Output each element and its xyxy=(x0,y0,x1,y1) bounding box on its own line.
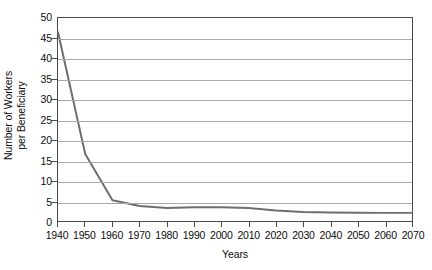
x-axis-tick-mark xyxy=(412,222,413,227)
gridline xyxy=(58,39,412,40)
x-axis-tick-mark xyxy=(249,222,250,227)
y-axis-tick-label: 15 xyxy=(26,155,52,166)
y-axis-tick-label: 20 xyxy=(26,135,52,146)
y-axis-tick-label: 40 xyxy=(26,53,52,64)
x-axis-tick-mark xyxy=(358,222,359,227)
x-axis-tick-mark xyxy=(221,222,222,227)
x-axis-tick-mark xyxy=(139,222,140,227)
y-axis-tick-labels: 05101520253035404550 xyxy=(26,17,52,222)
y-axis-tick-label: 5 xyxy=(26,196,52,207)
x-axis-tick-mark xyxy=(84,222,85,227)
gridline xyxy=(58,59,412,60)
x-axis-tick-mark xyxy=(167,222,168,227)
x-axis-tick-mark xyxy=(386,222,387,227)
y-axis-tick-label: 0 xyxy=(26,217,52,228)
gridline xyxy=(58,141,412,142)
y-axis-tick-label: 50 xyxy=(26,12,52,23)
y-axis-title-line-1: Number of Workers xyxy=(3,70,16,159)
gridline xyxy=(58,162,412,163)
gridline xyxy=(58,121,412,122)
x-axis-tick-mark xyxy=(276,222,277,227)
gridline xyxy=(58,203,412,204)
x-axis-tick-mark xyxy=(303,222,304,227)
chart-screenshot: Number of Workers per Beneficiary 051015… xyxy=(0,0,432,270)
x-axis-tick-mark xyxy=(57,222,58,227)
gridline xyxy=(58,182,412,183)
data-series-line xyxy=(58,18,412,221)
x-axis-tick-mark xyxy=(331,222,332,227)
x-axis-tick-marks xyxy=(57,222,413,228)
x-axis-tick-label: 2070 xyxy=(393,229,432,242)
y-axis-tick-label: 10 xyxy=(26,176,52,187)
x-axis-tick-labels: 1940195019601970198019902000201020202030… xyxy=(0,229,432,243)
gridline xyxy=(58,80,412,81)
plot-area xyxy=(57,17,413,222)
x-axis-tick-mark xyxy=(194,222,195,227)
y-axis-tick-label: 30 xyxy=(26,94,52,105)
gridline xyxy=(58,100,412,101)
x-axis-tick-mark xyxy=(112,222,113,227)
x-axis-title: Years xyxy=(57,248,413,260)
y-axis-tick-label: 45 xyxy=(26,32,52,43)
y-axis-tick-label: 25 xyxy=(26,114,52,125)
plot-inner xyxy=(58,18,412,221)
y-axis-tick-label: 35 xyxy=(26,73,52,84)
